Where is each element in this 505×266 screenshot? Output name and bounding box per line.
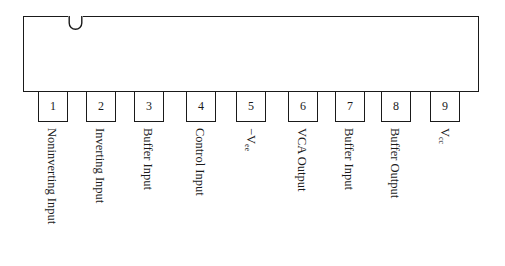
- pin-6-label: VCA Output: [295, 128, 308, 192]
- pin-7-label: Buffer Input: [342, 128, 355, 190]
- pin-number: 6: [300, 99, 306, 114]
- ic-package-body: [23, 16, 479, 92]
- pin-4: 4: [186, 92, 216, 122]
- pin-6: 6: [288, 92, 318, 122]
- pin-1-label: Noninverting Input: [45, 128, 58, 224]
- pin-7: 7: [335, 92, 365, 122]
- pin-9: 9: [430, 92, 460, 122]
- pin-9-label: Vcc: [437, 128, 451, 144]
- pin-2: 2: [86, 92, 116, 122]
- pin1-orientation-notch: [68, 14, 83, 36]
- pin-8: 8: [381, 92, 411, 122]
- pin-number: 5: [248, 99, 254, 114]
- pin-8-label: Buffer Output: [388, 128, 401, 198]
- pin-number: 9: [442, 99, 448, 114]
- pin-number: 8: [393, 99, 399, 114]
- pin-number: 2: [98, 99, 104, 114]
- pin-2-label: Inverting Input: [93, 128, 106, 203]
- pin-5-label: −Vee: [243, 128, 257, 151]
- pin-5: 5: [236, 92, 266, 122]
- pin-number: 1: [50, 99, 56, 114]
- pin-number: 4: [198, 99, 204, 114]
- pin-number: 3: [146, 99, 152, 114]
- pin-number: 7: [347, 99, 353, 114]
- pin-3: 3: [134, 92, 164, 122]
- pin-1: 1: [38, 92, 68, 122]
- pin-3-label: Buffer Input: [141, 128, 154, 190]
- pin-4-label: Control Input: [193, 128, 206, 196]
